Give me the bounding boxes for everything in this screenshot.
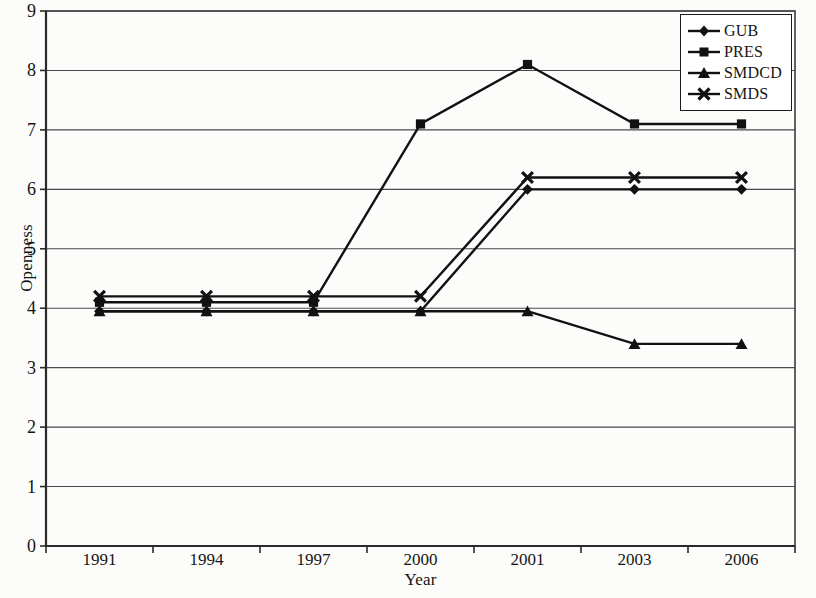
legend-item: PRES	[687, 41, 785, 62]
data-point-marker	[737, 119, 746, 128]
legend-label-smdcd: SMDCD	[721, 64, 782, 82]
line-chart: Openness Year 0123456789 199119941997200…	[0, 0, 816, 598]
legend-item: GUB	[687, 20, 785, 41]
x-marker-icon	[687, 85, 721, 103]
legend-item: SMDS	[687, 83, 785, 104]
triangle-marker-icon	[687, 64, 721, 82]
data-point-marker	[416, 119, 425, 128]
legend-label-smds: SMDS	[721, 85, 768, 103]
chart-legend: GUB PRES SMDCD	[680, 14, 792, 111]
legend-label-gub: GUB	[721, 22, 758, 40]
data-point-marker	[630, 119, 639, 128]
legend-item: SMDCD	[687, 62, 785, 83]
square-marker-icon	[687, 43, 721, 61]
diamond-marker-icon	[687, 22, 721, 40]
legend-label-pres: PRES	[721, 43, 763, 61]
data-point-marker	[523, 60, 532, 69]
